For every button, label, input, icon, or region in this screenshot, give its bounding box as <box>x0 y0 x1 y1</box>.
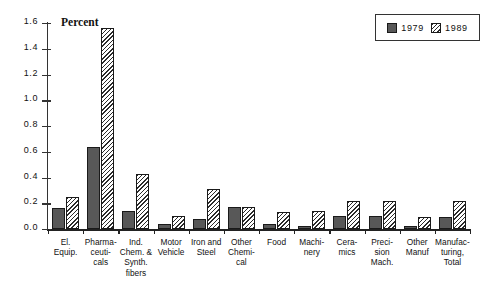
y-axis-tick-label: 1.4 <box>24 42 38 52</box>
bar-group <box>259 23 294 229</box>
x-axis-tick-mark <box>118 229 119 234</box>
y-axis-tick-label: 0.2 <box>24 196 38 206</box>
bar-1979 <box>193 219 206 229</box>
x-axis-tick-mark <box>435 229 436 234</box>
y-axis-tick-label: 1.0 <box>24 93 38 103</box>
bar-1989 <box>101 28 114 229</box>
bar-1989 <box>347 201 360 229</box>
bar-group <box>224 23 259 229</box>
y-axis-tick: 1.6 <box>0 23 48 24</box>
legend-label: 1989 <box>445 23 468 33</box>
bar-1979 <box>298 226 311 229</box>
y-axis-tick: 0.6 <box>0 152 48 153</box>
x-axis-label-line: Total <box>421 257 483 267</box>
bar-1979 <box>333 216 346 229</box>
x-axis-tick-mark <box>365 229 366 234</box>
bar-group <box>189 23 224 229</box>
x-axis-label-line: Manufac- <box>421 237 483 247</box>
bar-1989 <box>453 201 466 229</box>
bar-1979 <box>263 224 276 229</box>
legend: 19791989 <box>375 14 480 41</box>
bar-group <box>83 23 118 229</box>
bar-group <box>154 23 189 229</box>
legend-swatch <box>387 23 397 33</box>
bar-1989 <box>418 217 431 229</box>
x-axis-label-line: turing, <box>421 247 483 257</box>
y-axis-tick-label: 0.0 <box>24 222 38 232</box>
bar-1979 <box>158 224 171 229</box>
x-axis-tick-mark <box>189 229 190 234</box>
bar-group <box>435 23 470 229</box>
bar-1989 <box>136 174 149 229</box>
x-axis-label: Manufac-turing,Total <box>421 237 483 268</box>
y-axis-tick: 0.4 <box>0 178 48 179</box>
x-axis-label-line: fibers <box>105 268 167 278</box>
bar-group <box>118 23 153 229</box>
plot-area <box>48 23 468 229</box>
bar-group <box>400 23 435 229</box>
bar-1979 <box>404 226 417 229</box>
legend-item[interactable]: 1979 <box>387 23 424 33</box>
bar-group <box>329 23 364 229</box>
x-axis-tick-mark <box>470 229 471 234</box>
legend-item[interactable]: 1989 <box>431 23 468 33</box>
legend-label: 1979 <box>401 23 424 33</box>
y-axis-tick: 1.4 <box>0 49 48 50</box>
x-axis-tick-mark <box>294 229 295 234</box>
y-axis-tick-label: 0.6 <box>24 145 38 155</box>
y-axis-tick: 1.0 <box>0 100 48 101</box>
x-axis-label-line: Mach. <box>351 257 413 267</box>
x-axis-tick-mark <box>48 229 49 234</box>
bar-1979 <box>52 208 65 229</box>
x-axis-tick-mark <box>154 229 155 234</box>
x-axis-label-line: Chemi- <box>210 247 272 257</box>
bar-1989 <box>277 212 290 229</box>
x-axis-tick-mark <box>259 229 260 234</box>
x-axis-label-line: cal <box>210 257 272 267</box>
y-axis-tick-label: 0.8 <box>24 119 38 129</box>
y-axis-tick: 0.0 <box>0 229 48 230</box>
bar-1979 <box>122 211 135 229</box>
x-axis-tick-mark <box>83 229 84 234</box>
bar-1989 <box>312 211 325 229</box>
bar-1989 <box>207 189 220 229</box>
bar-1989 <box>242 207 255 229</box>
y-axis-tick-label: 1.2 <box>24 68 38 78</box>
bar-1989 <box>172 216 185 229</box>
y-axis-tick: 0.2 <box>0 203 48 204</box>
bar-1979 <box>369 216 382 229</box>
bar-1979 <box>228 207 241 229</box>
x-axis-label-line: Synth. <box>105 257 167 267</box>
x-axis-tick-mark <box>400 229 401 234</box>
y-axis-tick-mark <box>42 229 51 230</box>
bar-1979 <box>87 147 100 229</box>
legend-swatch <box>431 23 441 33</box>
y-axis-tick-label: 1.6 <box>24 16 38 26</box>
y-axis-tick: 0.8 <box>0 126 48 127</box>
x-axis-tick-mark <box>329 229 330 234</box>
bar-group <box>294 23 329 229</box>
bar-1979 <box>439 217 452 229</box>
y-axis-tick-label: 0.4 <box>24 171 38 181</box>
bar-group <box>365 23 400 229</box>
x-axis-tick-mark <box>224 229 225 234</box>
bar-1989 <box>383 201 396 229</box>
bar-1989 <box>66 197 79 229</box>
bar-chart: Percent 0.00.20.40.60.81.01.21.41.6 El.E… <box>0 0 489 297</box>
bar-group <box>48 23 83 229</box>
y-axis-tick: 1.2 <box>0 75 48 76</box>
